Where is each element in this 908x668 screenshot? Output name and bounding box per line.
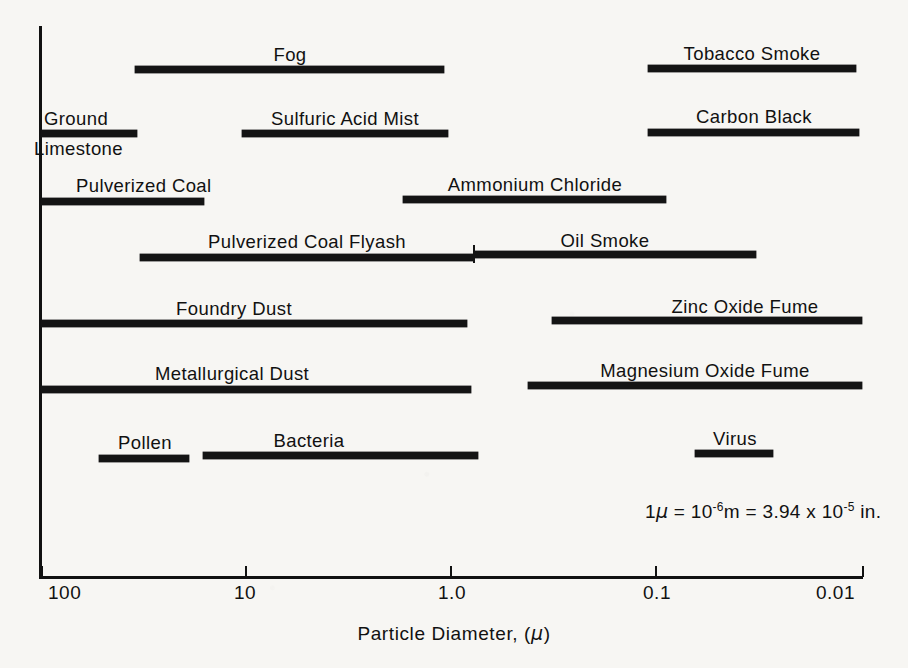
bar-label-carbon-black: Carbon Black bbox=[696, 106, 812, 128]
bar-label-sulfuric-acid-mist: Sulfuric Acid Mist bbox=[271, 108, 419, 130]
x-tick-1 bbox=[450, 566, 452, 577]
x-tick-0.01 bbox=[862, 566, 864, 577]
bar-pulverized-coal bbox=[41, 198, 204, 205]
bar-label-pollen: Pollen bbox=[118, 432, 172, 454]
bar-carbon-black bbox=[648, 129, 859, 136]
bar-label-ammonium-chloride: Ammonium Chloride bbox=[448, 174, 622, 196]
particle-diameter-chart: 100 10 1.0 0.1 0.01 Fog Tobacco Smoke Gr… bbox=[0, 0, 908, 668]
x-tick-10 bbox=[245, 566, 247, 577]
bar-magnesium-oxide-fume bbox=[528, 382, 862, 389]
x-tick-label-100: 100 bbox=[48, 582, 81, 604]
bar-ammonium-chloride bbox=[403, 196, 666, 203]
bar-oil-smoke bbox=[474, 251, 756, 258]
bar-label-foundry-dust: Foundry Dust bbox=[176, 298, 292, 320]
bar-label-magnesium-oxide-fume: Magnesium Oxide Fume bbox=[600, 360, 810, 382]
x-tick-label-1: 1.0 bbox=[438, 582, 466, 604]
flyash-oilsmoke-divider-tick bbox=[473, 245, 475, 263]
x-tick-label-0.01: 0.01 bbox=[816, 582, 855, 604]
bar-ground-limestone bbox=[41, 130, 137, 137]
bar-zinc-oxide-fume bbox=[552, 317, 862, 324]
x-tick-0.1 bbox=[655, 566, 657, 577]
bar-label-pulverized-coal: Pulverized Coal bbox=[76, 175, 212, 197]
bar-bacteria bbox=[203, 452, 478, 459]
note-eq2: = 3.94 x 10 bbox=[740, 501, 843, 522]
bar-label-metallurgical-dust: Metallurgical Dust bbox=[155, 363, 309, 385]
x-axis-title-text: Particle Diameter, ( bbox=[357, 623, 531, 644]
x-tick-label-10: 10 bbox=[234, 582, 256, 604]
bar-label-bacteria: Bacteria bbox=[273, 430, 344, 452]
bar-label-limestone: Limestone bbox=[34, 138, 123, 160]
note-exponent-2: -5 bbox=[843, 500, 854, 514]
x-axis-title-mu-symbol: μ bbox=[531, 622, 544, 644]
bar-label-fog: Fog bbox=[273, 44, 306, 66]
bar-foundry-dust bbox=[41, 320, 467, 327]
bar-label-virus: Virus bbox=[713, 428, 757, 450]
note-mu-symbol: μ bbox=[656, 500, 668, 522]
bar-virus bbox=[695, 450, 773, 457]
unit-conversion-note: 1μ = 10-6m = 3.94 x 10-5 in. bbox=[645, 500, 881, 523]
note-exponent-1: -6 bbox=[713, 500, 724, 514]
x-axis-title: Particle Diameter, (μ) bbox=[0, 622, 908, 645]
bar-label-zinc-oxide-fume: Zinc Oxide Fume bbox=[672, 296, 819, 318]
x-tick-label-0.1: 0.1 bbox=[643, 582, 671, 604]
bar-pulverized-coal-flyash bbox=[140, 254, 474, 261]
bar-label-ground: Ground bbox=[44, 108, 108, 130]
note-prefix: 1 bbox=[645, 501, 656, 522]
note-meter-unit: m bbox=[724, 501, 740, 522]
note-inch-unit: in. bbox=[855, 501, 882, 522]
bar-metallurgical-dust bbox=[41, 386, 471, 393]
bar-label-oil-smoke: Oil Smoke bbox=[561, 230, 650, 252]
note-eq1: = 10 bbox=[668, 501, 712, 522]
x-tick-100 bbox=[41, 566, 43, 577]
bar-label-tobacco-smoke: Tobacco Smoke bbox=[684, 43, 821, 65]
bar-tobacco-smoke bbox=[648, 65, 856, 72]
y-axis-line bbox=[39, 26, 42, 579]
bar-sulfuric-acid-mist bbox=[242, 130, 448, 137]
bar-fog bbox=[135, 66, 444, 73]
plot-area: 100 10 1.0 0.1 0.01 Fog Tobacco Smoke Gr… bbox=[0, 0, 908, 668]
x-axis-title-close-paren: ) bbox=[544, 623, 551, 644]
bar-pollen bbox=[99, 455, 189, 462]
bar-label-pulverized-coal-flyash: Pulverized Coal Flyash bbox=[208, 231, 406, 253]
